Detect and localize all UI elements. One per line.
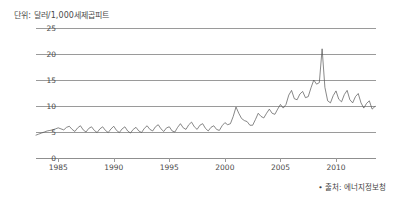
x-tick-label-1995: 1995	[160, 163, 179, 172]
chart-figure: 단위: 달러/1,000세제곱피트 0510152025 19851990199…	[0, 0, 398, 203]
source-note: • 출처: 에너지정보청	[318, 181, 386, 192]
x-tick-mark-1995	[169, 158, 170, 162]
x-tick-mark-1990	[114, 158, 115, 162]
x-tick-label-2005: 2005	[271, 163, 290, 172]
plot-area	[36, 28, 376, 158]
x-tick-mark-2005	[280, 158, 281, 162]
y-tick-label-15: 15	[34, 76, 56, 85]
y-tick-label-20: 20	[34, 50, 56, 59]
chart-unit-title: 단위: 달러/1,000세제곱피트	[14, 9, 110, 20]
y-tick-label-25: 25	[34, 24, 56, 33]
x-tick-label-1990: 1990	[104, 163, 123, 172]
x-tick-label-1985: 1985	[49, 163, 68, 172]
x-tick-label-2010: 2010	[326, 163, 345, 172]
y-tick-label-5: 5	[34, 128, 56, 137]
x-tick-mark-2000	[225, 158, 226, 162]
x-tick-mark-2010	[336, 158, 337, 162]
line-series-natural-gas-price	[36, 28, 376, 158]
series-polyline	[36, 49, 375, 135]
x-axis: 198519901995200020052010	[36, 158, 376, 180]
x-tick-mark-1985	[58, 158, 59, 162]
x-tick-label-2000: 2000	[215, 163, 234, 172]
y-tick-label-10: 10	[34, 102, 56, 111]
